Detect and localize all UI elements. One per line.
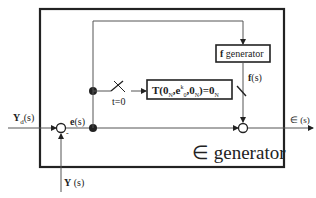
switch-label: t=0 <box>112 97 125 107</box>
summing-junction-2 <box>239 124 248 133</box>
switch-t0 <box>111 81 123 91</box>
summing-junction-1 <box>57 124 66 133</box>
yd-label: Yd(s) <box>13 113 34 126</box>
block-diagram <box>0 0 316 198</box>
error-label: e(s) <box>70 117 85 127</box>
t-block-label: T(0N,ek0,0N)=0N <box>152 84 219 98</box>
f-switch <box>237 86 246 96</box>
f-generator-label: f generator <box>220 49 264 59</box>
y-label: Y (s) <box>64 178 84 188</box>
epsilon-output-label: ∈ (s) <box>290 116 310 125</box>
epsilon-generator-title: ∈ generator <box>192 143 285 162</box>
minus-sign: - <box>66 130 69 138</box>
f-signal-label: f(s) <box>248 73 262 83</box>
